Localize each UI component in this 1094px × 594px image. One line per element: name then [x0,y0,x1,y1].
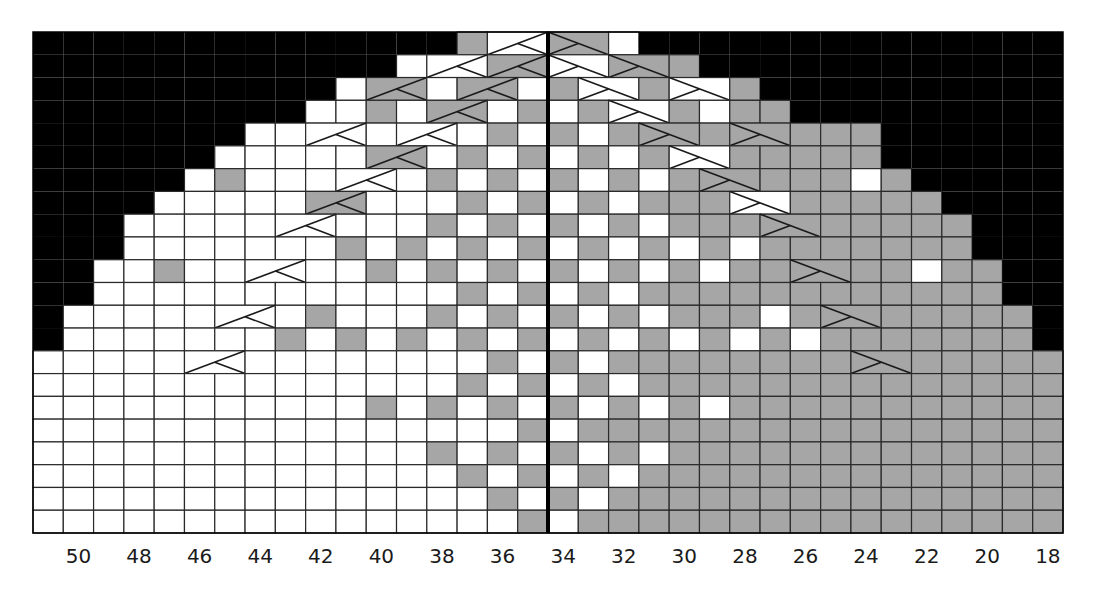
main-stitch-cell [94,305,124,328]
main-stitch-cell [124,419,154,442]
contrast-stitch-cell [1002,328,1032,351]
no-stitch-cell [972,32,1002,55]
contrast-stitch-cell [821,442,851,465]
contrast-stitch-cell [518,237,548,260]
main-stitch-cell [427,419,457,442]
main-stitch-cell [306,465,336,488]
no-stitch-cell [1002,100,1032,123]
contrast-stitch-cell [154,260,184,283]
x-axis-tick-label: 42 [308,544,333,568]
contrast-stitch-cell [427,305,457,328]
main-stitch-cell [518,487,548,510]
main-stitch-cell [94,465,124,488]
main-stitch-cell [245,237,275,260]
main-stitch-cell [63,351,93,374]
contrast-stitch-cell [669,396,699,419]
contrast-stitch-cell [912,510,942,533]
contrast-stitch-cell [548,305,578,328]
no-stitch-cell [1033,123,1063,146]
main-stitch-cell [275,396,305,419]
main-stitch-cell [94,487,124,510]
contrast-stitch-cell [851,487,881,510]
no-stitch-cell [154,169,184,192]
main-stitch-cell [33,396,63,419]
x-axis-tick-label: 36 [490,544,515,568]
contrast-stitch-cell [397,328,427,351]
main-stitch-cell [306,374,336,397]
main-stitch-cell [245,146,275,169]
x-axis-tick-label: 44 [247,544,272,568]
contrast-stitch-cell [760,260,790,283]
no-stitch-cell [881,32,911,55]
contrast-stitch-cell [669,374,699,397]
main-stitch-cell [397,260,427,283]
contrast-stitch-cell [699,510,729,533]
contrast-stitch-cell [1033,396,1063,419]
no-stitch-cell [124,123,154,146]
no-stitch-cell [275,55,305,78]
contrast-stitch-cell [609,510,639,533]
main-stitch-cell [154,191,184,214]
main-stitch-cell [699,100,729,123]
contrast-stitch-cell [942,305,972,328]
contrast-stitch-cell [730,305,760,328]
main-stitch-cell [669,237,699,260]
no-stitch-cell [1033,55,1063,78]
contrast-stitch-cell [487,214,517,237]
contrast-stitch-cell [730,78,760,101]
contrast-stitch-cell [699,328,729,351]
contrast-stitch-cell [1033,419,1063,442]
contrast-stitch-cell [336,237,366,260]
contrast-stitch-cell [457,191,487,214]
contrast-stitch-cell [912,214,942,237]
no-stitch-cell [1033,305,1063,328]
no-stitch-cell [912,146,942,169]
contrast-stitch-cell [821,487,851,510]
contrast-stitch-cell [518,374,548,397]
main-stitch-cell [548,237,578,260]
contrast-stitch-cell [487,123,517,146]
contrast-stitch-cell [366,260,396,283]
contrast-stitch-cell [730,283,760,306]
contrast-stitch-cell [457,32,487,55]
main-stitch-cell [245,396,275,419]
main-stitch-cell [397,283,427,306]
contrast-stitch-cell [790,465,820,488]
contrast-stitch-cell [487,169,517,192]
main-stitch-cell [275,351,305,374]
contrast-stitch-cell [669,510,699,533]
contrast-stitch-cell [790,146,820,169]
main-stitch-cell [457,419,487,442]
contrast-stitch-cell [851,328,881,351]
main-stitch-cell [548,510,578,533]
contrast-stitch-cell [790,419,820,442]
main-stitch-cell [275,123,305,146]
contrast-stitch-cell [518,328,548,351]
x-axis-tick-label: 38 [429,544,454,568]
main-stitch-cell [154,396,184,419]
no-stitch-cell [184,100,214,123]
contrast-stitch-cell [397,237,427,260]
contrast-stitch-cell [821,465,851,488]
contrast-stitch-cell [639,78,669,101]
contrast-stitch-cell [699,214,729,237]
main-stitch-cell [397,419,427,442]
x-axis-tick-label: 48 [126,544,151,568]
no-stitch-cell [851,78,881,101]
x-axis-tick-label: 50 [66,544,91,568]
contrast-stitch-cell [730,442,760,465]
no-stitch-cell [94,146,124,169]
no-stitch-cell [275,32,305,55]
contrast-stitch-cell [336,328,366,351]
main-stitch-cell [336,214,366,237]
main-stitch-cell [457,305,487,328]
contrast-stitch-cell [972,328,1002,351]
contrast-stitch-cell [881,260,911,283]
no-stitch-cell [366,32,396,55]
no-stitch-cell [942,55,972,78]
main-stitch-cell [336,305,366,328]
contrast-stitch-cell [760,465,790,488]
main-stitch-cell [639,396,669,419]
no-stitch-cell [306,32,336,55]
contrast-stitch-cell [881,465,911,488]
